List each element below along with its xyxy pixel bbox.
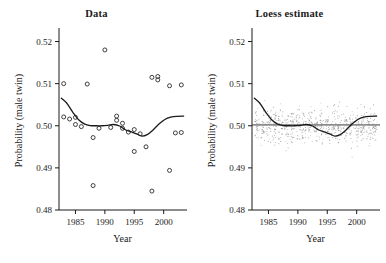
figure-root: Data 0.480.490.500.510.52198519901995200… [0,0,386,263]
data-point [85,82,89,86]
data-point [150,75,154,79]
y-tick-label: 0.52 [229,37,245,47]
y-tick-label: 0.49 [229,163,245,173]
x-axis-label: Year [113,233,132,244]
data-point [144,145,148,149]
y-tick-label: 0.48 [229,205,245,215]
data-point [132,128,136,132]
x-axis-ticks-right: 1985199019952000 [259,210,366,227]
data-point [91,136,95,140]
y-tick-label: 0.51 [36,79,52,89]
data-point [115,114,119,118]
plot-canvas-left: 0.480.490.500.510.521985199019952000Year… [0,0,193,263]
data-point [168,168,172,172]
data-point [79,125,83,129]
data-point [73,123,77,127]
y-axis-ticks-right: 0.480.490.500.510.52 [229,37,252,215]
y-tick-label: 0.52 [36,37,52,47]
x-axis-ticks-left: 1985199019952000 [66,210,173,227]
data-point [62,82,66,86]
y-axis-label: Probability (male twin) [206,74,218,167]
x-tick-label: 1990 [96,217,115,227]
chart-panel-loess: Loess estimate 0.480.490.500.510.5219851… [193,0,386,263]
x-axis-label: Year [306,233,325,244]
data-point [168,84,172,88]
data-point [179,83,183,87]
y-axis-ticks-left: 0.480.490.500.510.52 [36,37,59,215]
plot-canvas-right: 0.480.490.500.510.521985199019952000Year… [193,0,386,263]
x-tick-label: 1985 [66,217,85,227]
data-point [121,121,125,125]
data-point [68,117,72,121]
y-axis-label: Probability (male twin) [13,74,25,167]
data-point [97,126,101,130]
data-point [179,131,183,135]
data-point [132,149,136,153]
y-tick-label: 0.48 [36,205,52,215]
data-point [109,125,113,129]
x-tick-label: 2000 [348,217,367,227]
data-point [62,115,66,119]
x-tick-label: 2000 [155,217,174,227]
x-tick-label: 1985 [259,217,278,227]
chart-panel-data: Data 0.480.490.500.510.52198519901995200… [0,0,193,263]
x-tick-label: 1990 [289,217,308,227]
data-point [115,118,119,122]
data-point [103,48,107,52]
x-tick-label: 1995 [318,217,337,227]
data-point [150,189,154,193]
data-point [91,184,95,188]
x-tick-label: 1995 [125,217,144,227]
y-tick-label: 0.49 [36,163,52,173]
y-tick-label: 0.51 [229,79,245,89]
data-point [173,131,177,135]
y-tick-label: 0.50 [36,121,52,131]
y-tick-label: 0.50 [229,121,245,131]
